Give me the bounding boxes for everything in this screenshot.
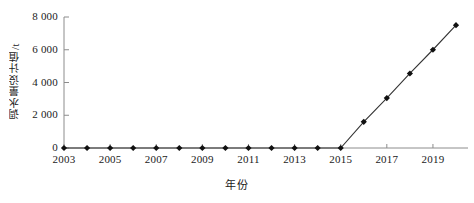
y-axis-tick-label: 0 [52, 141, 58, 153]
line-chart: 调水量设计值/t 02 0004 0006 0008 000 200320052… [0, 0, 474, 203]
y-axis-tick-label: 6 000 [32, 43, 58, 55]
x-axis-tick-label: 2003 [44, 153, 84, 165]
x-axis-tick-label: 2013 [275, 153, 315, 165]
x-axis-tick-label: 2019 [413, 153, 453, 165]
plot-area [0, 0, 474, 203]
y-axis-tick-label: 2 000 [32, 108, 58, 120]
data-point-marker [130, 145, 136, 151]
data-point-marker [61, 145, 67, 151]
x-axis-tick-label: 2011 [228, 153, 268, 165]
x-axis-tick-label: 2009 [182, 153, 222, 165]
x-axis-title: 年份 [0, 176, 474, 192]
data-point-marker [176, 145, 182, 151]
data-point-marker [291, 145, 297, 151]
data-point-marker [84, 145, 90, 151]
x-axis-tick-label: 2015 [321, 153, 361, 165]
data-point-marker [315, 145, 321, 151]
data-series [61, 22, 459, 151]
data-point-marker [222, 145, 228, 151]
data-point-marker [107, 145, 113, 151]
data-point-marker [199, 145, 205, 151]
series-line [64, 25, 456, 148]
y-axis-ticks [64, 17, 69, 148]
data-point-marker [268, 145, 274, 151]
data-point-markers [61, 22, 459, 151]
data-point-marker [245, 145, 251, 151]
y-axis-tick-label: 8 000 [32, 10, 58, 22]
axes [64, 17, 468, 148]
x-axis-tick-label: 2007 [136, 153, 176, 165]
data-point-marker [153, 145, 159, 151]
x-axis-tick-label: 2017 [367, 153, 407, 165]
x-axis-tick-label: 2005 [90, 153, 130, 165]
y-axis-tick-label: 4 000 [32, 76, 58, 88]
